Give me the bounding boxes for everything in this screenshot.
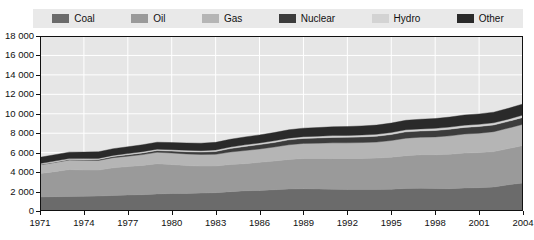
legend-item-hydro: Hydro [372, 14, 421, 24]
y-tick-label: 4 000 [10, 167, 34, 177]
x-tick-label: 1998 [425, 218, 446, 228]
x-tick-mark [128, 211, 129, 215]
y-tick-label: 16 000 [5, 50, 34, 60]
x-tick-mark [303, 211, 304, 215]
legend-item-nuclear: Nuclear [279, 14, 335, 24]
legend-label-other: Other [479, 14, 504, 24]
x-tick-mark [347, 211, 348, 215]
x-tick-mark [391, 211, 392, 215]
legend-item-oil: Oil [131, 14, 165, 24]
x-tick-mark [260, 211, 261, 215]
x-tick-label: 1977 [117, 218, 138, 228]
y-tick-label: 12 000 [5, 89, 34, 99]
legend-label-coal: Coal [74, 14, 95, 24]
x-tick-label: 1971 [29, 218, 50, 228]
x-tick-label: 1980 [161, 218, 182, 228]
legend-label-oil: Oil [153, 14, 165, 24]
x-tick-mark [172, 211, 173, 215]
y-tick-label: 6 000 [10, 148, 34, 158]
y-tick-label: 14 000 [5, 70, 34, 80]
legend-label-nuclear: Nuclear [301, 14, 335, 24]
plot-area [40, 36, 523, 211]
plot-svg [40, 36, 523, 211]
legend-item-other: Other [457, 14, 504, 24]
x-tick-label: 1995 [381, 218, 402, 228]
legend-swatch-hydro [372, 14, 389, 23]
legend-label-hydro: Hydro [394, 14, 421, 24]
x-tick-label: 1992 [337, 218, 358, 228]
legend-swatch-nuclear [279, 14, 296, 23]
y-axis: 02 0004 0006 0008 00010 00012 00014 0001… [0, 30, 40, 218]
x-tick-mark [40, 211, 41, 215]
x-tick-mark [84, 211, 85, 215]
x-tick-label: 1983 [205, 218, 226, 228]
y-tick-label: 18 000 [5, 31, 34, 41]
legend-item-gas: Gas [202, 14, 242, 24]
y-tick-label: 2 000 [10, 187, 34, 197]
x-tick-label: 2004 [512, 218, 533, 228]
x-tick-mark [479, 211, 480, 215]
legend-swatch-other [457, 14, 474, 23]
y-tick-label: 8 000 [10, 128, 34, 138]
legend-swatch-gas [202, 14, 219, 23]
x-axis: 1971197419771980198319861989199219951998… [0, 211, 531, 240]
x-tick-mark [216, 211, 217, 215]
x-tick-label: 2001 [469, 218, 490, 228]
chart-legend: Coal Oil Gas Nuclear Hydro Other [33, 9, 523, 28]
legend-swatch-oil [131, 14, 148, 23]
x-tick-label: 1989 [293, 218, 314, 228]
y-tick-label: 10 000 [5, 109, 34, 119]
legend-item-coal: Coal [52, 14, 95, 24]
x-tick-mark [435, 211, 436, 215]
x-tick-mark [523, 211, 524, 215]
x-tick-label: 1986 [249, 218, 270, 228]
legend-label-gas: Gas [224, 14, 242, 24]
x-tick-label: 1974 [73, 218, 94, 228]
legend-swatch-coal [52, 14, 69, 23]
